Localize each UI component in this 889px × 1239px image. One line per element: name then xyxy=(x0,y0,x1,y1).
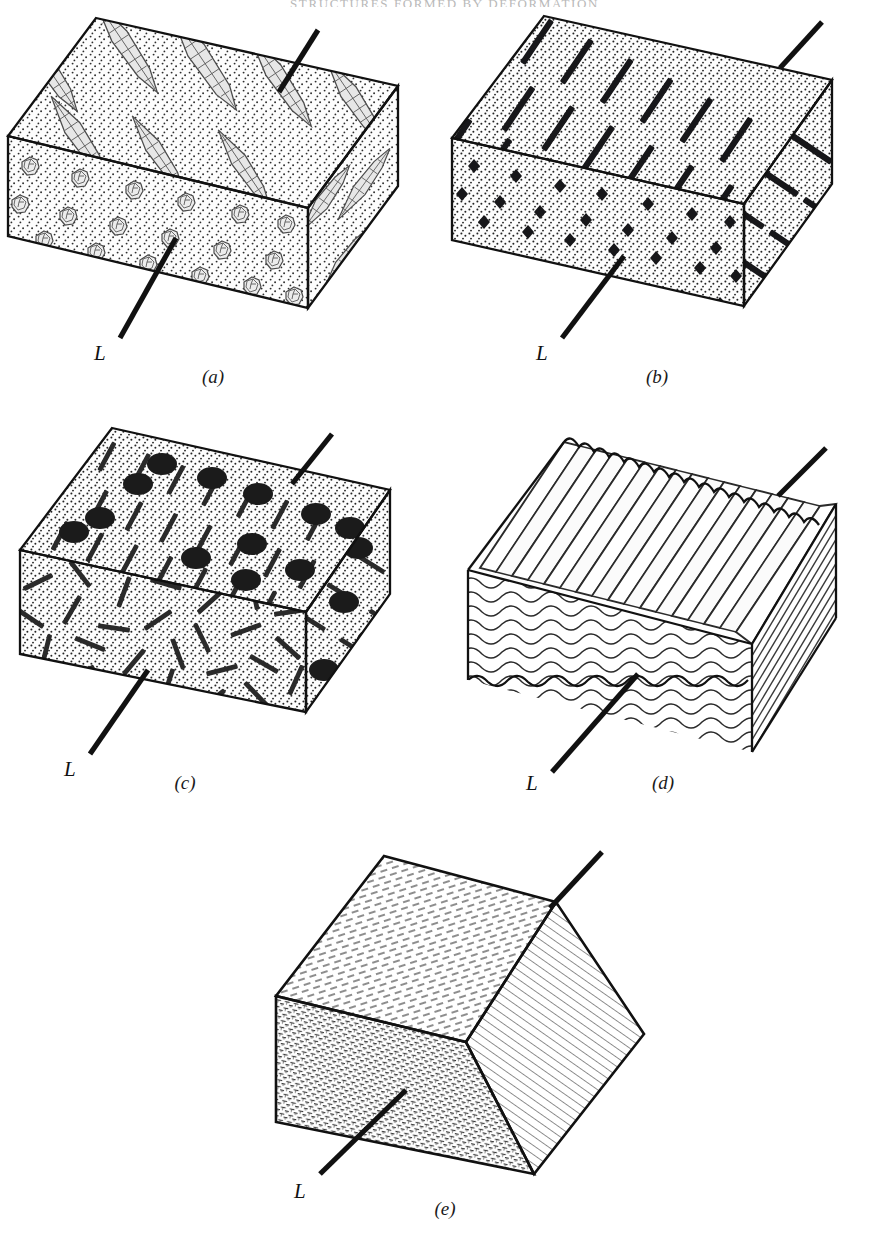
lineation-label-a: L xyxy=(93,341,106,365)
lineation-line-top-b xyxy=(780,22,822,68)
caption-d: (d) xyxy=(628,772,698,794)
lineation-line-top-d xyxy=(778,448,826,496)
block-diagram-c: L xyxy=(6,412,436,792)
figure-root: STRUCTURES FORMED BY DEFORMATION xyxy=(0,0,889,1239)
block-diagram-a: L xyxy=(8,8,428,388)
lineation-line-front-c xyxy=(90,670,148,754)
block-d-svg: L xyxy=(452,412,882,792)
lineation-line-top-e xyxy=(550,852,602,908)
caption-e: (e) xyxy=(410,1198,480,1220)
caption-c: (c) xyxy=(150,772,220,794)
block-b-svg: L xyxy=(444,8,874,388)
block-c-svg: L xyxy=(6,412,436,792)
running-head: STRUCTURES FORMED BY DEFORMATION xyxy=(0,0,889,7)
block-a-svg: L xyxy=(8,8,428,388)
block-diagram-d: L xyxy=(452,412,882,792)
lineation-label-d: L xyxy=(525,771,538,795)
caption-a: (a) xyxy=(178,366,248,388)
block-diagram-e: L xyxy=(232,816,682,1226)
block-e-svg: L xyxy=(232,816,682,1226)
lineation-label-c: L xyxy=(63,757,76,781)
lineation-label-b: L xyxy=(535,341,548,365)
caption-b: (b) xyxy=(622,366,692,388)
block-diagram-b: L xyxy=(444,8,874,388)
lineation-label-e: L xyxy=(293,1179,306,1203)
